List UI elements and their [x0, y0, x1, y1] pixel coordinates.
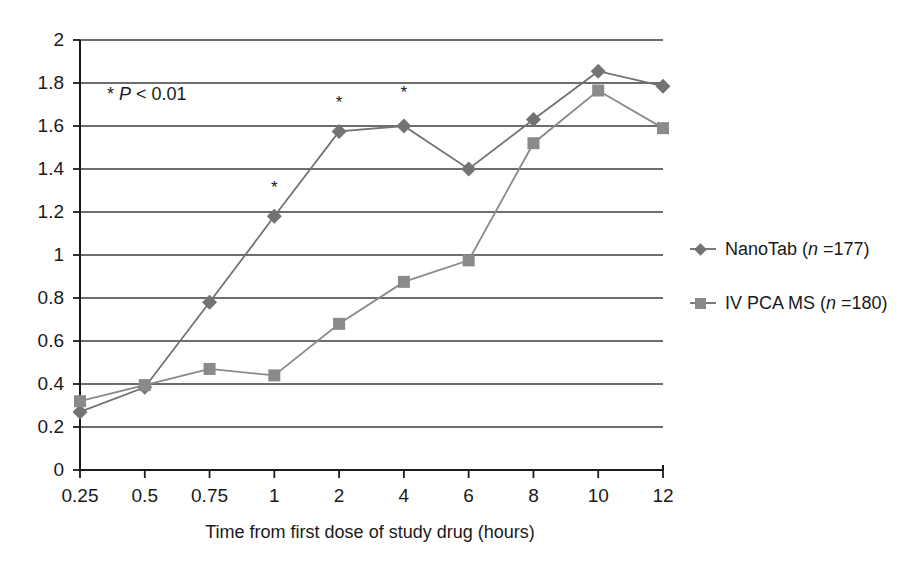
data-point-square: [268, 369, 280, 381]
data-point-square: [74, 395, 86, 407]
p-value-annotation: * P < 0.01: [107, 84, 187, 104]
data-point-diamond: [526, 112, 541, 127]
y-tick-label: 1.2: [0, 202, 64, 221]
data-point-diamond: [202, 295, 217, 310]
x-axis-title: Time from first dose of study drug (hour…: [180, 522, 560, 542]
legend-ivpca-italic-n: n: [826, 293, 836, 313]
series-markers: [73, 64, 671, 420]
legend-label-nanotab: NanoTab (n =177): [725, 239, 870, 259]
chart-legend: NanoTab (n =177) IV PCA MS (n =180): [690, 236, 910, 344]
y-tick-label: 1: [0, 245, 64, 264]
data-point-diamond: [461, 162, 476, 177]
data-point-square: [398, 276, 410, 288]
legend-label-iv-pca-ms: IV PCA MS (n =180): [725, 293, 888, 313]
data-point-square: [657, 122, 669, 134]
legend-ivpca-main: IV PCA MS (: [725, 293, 826, 313]
y-tick-label: 0.2: [0, 417, 64, 436]
annotation-italic-p: P: [119, 84, 131, 104]
square-marker-icon: [690, 296, 716, 310]
y-tick-label: 0.4: [0, 374, 64, 393]
data-point-square: [333, 318, 345, 330]
x-tick-label: 12: [623, 486, 703, 505]
data-point-diamond: [267, 209, 282, 224]
data-point-diamond: [396, 119, 411, 134]
y-tick-label: 1.6: [0, 116, 64, 135]
legend-item-iv-pca-ms[interactable]: IV PCA MS (n =180): [690, 290, 910, 316]
y-tick-label: 0: [0, 460, 64, 479]
significance-asterisk: *: [267, 179, 281, 196]
series-line-2: [80, 91, 663, 402]
data-point-square: [463, 254, 475, 266]
chart-container: 00.20.40.60.811.21.41.61.82 0.250.50.751…: [0, 0, 915, 577]
legend-nanotab-tail: =177): [818, 239, 870, 259]
significance-asterisk: *: [332, 94, 346, 111]
series-line-1: [80, 71, 663, 412]
y-tick-label: 0.8: [0, 288, 64, 307]
data-point-square: [204, 363, 216, 375]
legend-ivpca-tail: =180): [836, 293, 888, 313]
data-point-square: [527, 137, 539, 149]
significance-asterisk: *: [397, 84, 411, 101]
legend-nanotab-main: NanoTab (: [725, 239, 808, 259]
y-tick-label: 1.4: [0, 159, 64, 178]
legend-nanotab-italic-n: n: [808, 239, 818, 259]
data-point-diamond: [656, 79, 671, 94]
series-lines: [80, 71, 663, 412]
y-tick-label: 2: [0, 30, 64, 49]
y-tick-label: 1.8: [0, 73, 64, 92]
x-axis-ticks: [80, 470, 663, 478]
annotation-star: *: [107, 84, 114, 104]
legend-item-nanotab[interactable]: NanoTab (n =177): [690, 236, 910, 262]
y-tick-label: 0.6: [0, 331, 64, 350]
data-point-square: [139, 379, 151, 391]
data-point-diamond: [591, 64, 606, 79]
diamond-marker-icon: [690, 242, 716, 256]
annotation-tail: < 0.01: [131, 84, 187, 104]
data-point-square: [592, 85, 604, 97]
